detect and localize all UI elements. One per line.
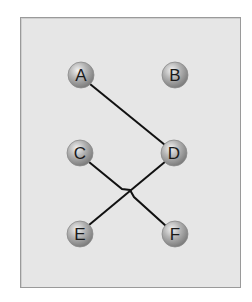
node-label: D [168,144,180,163]
node-label: C [74,144,86,163]
node-a: A [68,62,94,88]
node-label: B [169,66,180,85]
graph-diagram: ABCDEF [0,0,252,302]
node-label: E [74,225,85,244]
node-c: C [67,140,93,166]
node-d: D [161,140,187,166]
edges [89,84,166,226]
nodes: ABCDEF [67,62,188,247]
node-e: E [67,221,93,247]
node-label: F [170,225,180,244]
node-b: B [162,62,188,88]
edge-a-d [90,84,165,145]
node-f: F [162,221,188,247]
node-label: A [75,66,87,85]
